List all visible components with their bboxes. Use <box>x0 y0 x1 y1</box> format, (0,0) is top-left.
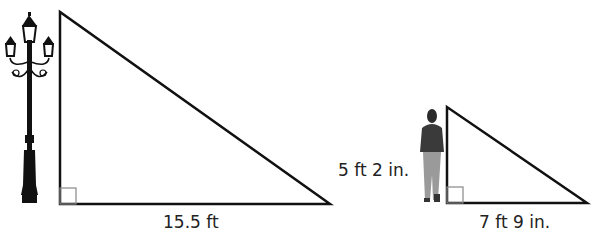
right-angle-mark <box>60 188 76 204</box>
right-angle-mark <box>447 187 463 203</box>
lamppost-icon <box>5 12 54 203</box>
person-icon <box>420 109 444 202</box>
diagram-canvas <box>0 0 593 239</box>
lamppost-shadow-label: 15.5 ft <box>163 212 219 232</box>
person-triangle <box>447 107 587 203</box>
lamppost-triangle <box>60 12 330 204</box>
person-height-label: 5 ft 2 in. <box>338 160 409 180</box>
person-shadow-label: 7 ft 9 in. <box>479 212 550 232</box>
